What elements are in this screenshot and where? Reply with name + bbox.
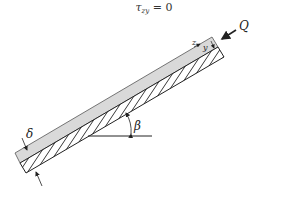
delta-arrow-bottom [36,172,42,186]
beta-angle-arc [126,113,131,134]
inclined-film-diagram: β δ Q z y [0,0,308,204]
liquid-film [15,37,218,163]
beta-label: β [133,119,141,133]
y-axis-label: y [202,43,208,52]
flow-rate-label: Q [239,19,249,33]
flow-arrow [222,30,236,39]
delta-label: δ [26,127,33,141]
